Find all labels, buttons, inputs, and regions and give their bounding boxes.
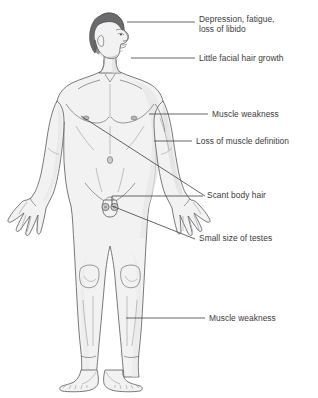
- label-facial-hair: Little facial hair growth: [199, 53, 284, 63]
- pupil: [120, 33, 122, 35]
- diagram-canvas: Depression, fatigue,loss of libido Littl…: [0, 0, 318, 398]
- label-scant-body-hair: Scant body hair: [207, 190, 266, 200]
- label-depression: Depression, fatigue,loss of libido: [199, 14, 275, 35]
- label-muscle-weakness-leg: Muscle weakness: [209, 313, 276, 323]
- nipple-right: [131, 116, 137, 120]
- foot-left: [60, 370, 99, 392]
- label-depression-line1: Depression, fatigue,: [199, 14, 275, 24]
- label-small-testes: Small size of testes: [199, 233, 272, 243]
- mouth: [120, 46, 126, 48]
- testis-left-inner: [104, 205, 107, 208]
- navel: [107, 157, 112, 164]
- label-muscle-weakness-arm: Muscle weakness: [212, 109, 279, 119]
- label-muscle-definition: Loss of muscle definition: [196, 136, 289, 146]
- label-depression-line2: loss of libido: [199, 24, 246, 34]
- body-group: [8, 13, 210, 392]
